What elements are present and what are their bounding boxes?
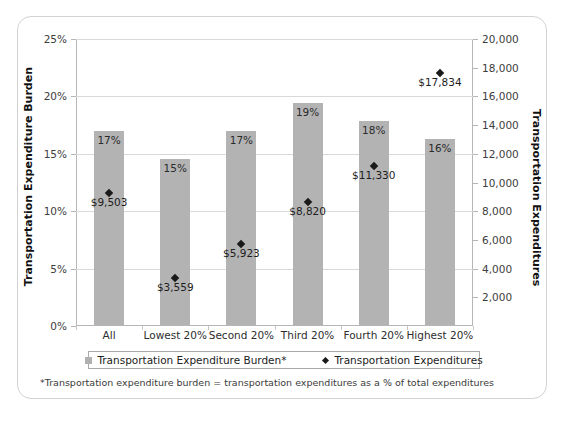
marker-value-label: $5,923: [223, 247, 260, 259]
right-axis-tick: [473, 154, 478, 155]
marker-value-label: $8,820: [289, 205, 326, 217]
legend-item[interactable]: Transportation Expenditure Burden*: [85, 354, 286, 366]
left-axis-tick: [71, 39, 76, 40]
left-axis-tick-label: 25%: [44, 33, 67, 45]
bar-value-label: 17%: [230, 134, 253, 146]
square-swatch-icon: [85, 357, 92, 364]
left-axis-tick-label: 5%: [50, 263, 67, 275]
x-axis-category-label: All: [103, 329, 116, 341]
bar-value-label: 19%: [296, 106, 319, 118]
bar: 17%: [226, 131, 256, 325]
right-axis-title: Transportation Expenditures: [527, 53, 545, 343]
gridline: [76, 154, 473, 155]
gridline: [76, 39, 473, 40]
gridline: [76, 96, 473, 97]
right-axis-tick: [473, 269, 478, 270]
right-axis-tick-label: 2,000: [482, 291, 512, 303]
bar-value-label: 17%: [97, 134, 120, 146]
bar-value-label: 18%: [362, 124, 385, 136]
x-axis-category-label: Highest 20%: [406, 329, 473, 341]
left-axis-tick-label: 15%: [44, 148, 67, 160]
marker-value-label: $9,503: [91, 196, 128, 208]
bar: 16%: [425, 139, 455, 325]
right-axis-tick: [473, 240, 478, 241]
left-axis-title-text: Transportation Expenditure Burden: [22, 67, 35, 286]
left-axis-tick-label: 10%: [44, 205, 67, 217]
marker-value-label: $17,834: [418, 76, 461, 88]
x-axis-category-label: Third 20%: [281, 329, 334, 341]
left-axis-title: Transportation Expenditure Burden: [19, 17, 37, 337]
left-axis-tick-label: 20%: [44, 90, 67, 102]
right-axis-tick-label: 4,000: [482, 263, 512, 275]
right-axis-tick: [473, 125, 478, 126]
left-axis-line: [76, 39, 77, 326]
gridline: [76, 211, 473, 212]
diamond-marker-icon: [322, 356, 329, 363]
right-axis-tick: [473, 183, 478, 184]
right-axis-tick-label: 14,000: [482, 119, 519, 131]
right-axis-tick-label: 20,000: [482, 33, 519, 45]
marker-value-label: $11,330: [352, 169, 395, 181]
right-axis-tick-label: 12,000: [482, 148, 519, 160]
chart-footnote: *Transportation expenditure burden = tra…: [40, 377, 540, 388]
right-axis-tick-label: 6,000: [482, 234, 512, 246]
x-axis-category-label: Second 20%: [209, 329, 274, 341]
right-axis-tick-label: 8,000: [482, 205, 512, 217]
right-axis-tick-label: 16,000: [482, 90, 519, 102]
right-axis-tick: [473, 297, 478, 298]
plot-area: 0%5%10%15%20%25% 2,0004,0006,0008,00010,…: [76, 39, 473, 326]
x-axis-category-label: Lowest 20%: [144, 329, 207, 341]
bar: 15%: [160, 159, 190, 325]
right-axis-tick: [473, 39, 478, 40]
legend-item-label: Transportation Expenditure Burden*: [97, 354, 286, 366]
bar: 17%: [94, 131, 124, 325]
legend-item-label: Transportation Expenditures: [334, 354, 482, 366]
right-axis-tick: [473, 68, 478, 69]
legend-item[interactable]: Transportation Expenditures: [322, 354, 482, 366]
bar-value-label: 16%: [428, 142, 451, 154]
right-axis-tick-label: 18,000: [482, 62, 519, 74]
marker-value-label: $3,559: [157, 281, 194, 293]
bar-value-label: 15%: [164, 162, 187, 174]
x-axis-category-labels: AllLowest 20%Second 20%Third 20%Fourth 2…: [76, 329, 473, 345]
gridline: [76, 269, 473, 270]
left-axis-tick: [71, 154, 76, 155]
bar: 18%: [359, 121, 389, 325]
right-axis-tick: [473, 211, 478, 212]
chart-frame: Transportation Expenditure Burden Transp…: [17, 16, 547, 399]
chart-legend: Transportation Expenditure Burden*Transp…: [88, 351, 480, 369]
right-axis-tick-label: 10,000: [482, 177, 519, 189]
right-axis-tick: [473, 96, 478, 97]
left-axis-tick: [71, 211, 76, 212]
left-axis-tick: [71, 269, 76, 270]
left-axis-tick-label: 0%: [50, 320, 67, 332]
right-axis-title-text: Transportation Expenditures: [530, 109, 543, 286]
left-axis-tick: [71, 96, 76, 97]
x-axis-category-label: Fourth 20%: [343, 329, 404, 341]
